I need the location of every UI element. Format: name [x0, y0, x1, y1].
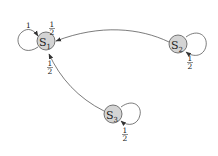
node-s3: S3	[104, 105, 122, 124]
state-diagram: S1 S2 S3 1 1 2 1 2 1 2 1 2	[0, 0, 218, 156]
node-s2: S2	[169, 35, 187, 54]
svg-text:2: 2	[188, 62, 193, 71]
edge-s1-self-loop	[18, 29, 38, 50]
svg-text:2: 2	[50, 28, 55, 37]
edge-s3-to-s1	[49, 54, 104, 111]
label-s3-self: 1 2	[122, 126, 128, 143]
label-s2-self: 1 2	[187, 54, 193, 71]
edge-s2-to-s1	[56, 30, 169, 42]
edge-s3-self-loop	[121, 103, 140, 124]
svg-text:2: 2	[123, 134, 128, 143]
edge-s2-self-loop	[186, 33, 206, 55]
label-s2-to-s1: 1 2	[49, 20, 55, 37]
label-s1-self: 1	[26, 21, 31, 30]
label-s3-to-s1: 1 2	[47, 59, 53, 76]
svg-text:2: 2	[48, 67, 53, 76]
